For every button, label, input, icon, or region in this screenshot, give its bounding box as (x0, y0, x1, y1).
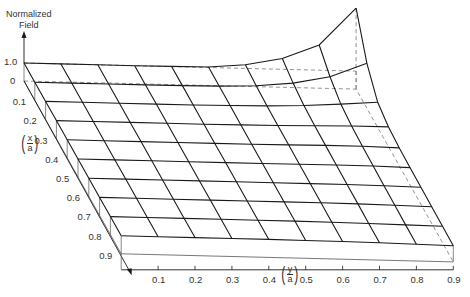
surface-grid-line-y (135, 66, 232, 239)
surface-grid-line-x (100, 197, 432, 206)
y-tick-label: 0.7 (374, 275, 387, 285)
x-tick-label: 0.4 (45, 155, 58, 165)
x-axis (24, 81, 130, 271)
x-tick-label: 0.1 (13, 97, 26, 107)
y-tick-label: 0.1 (152, 275, 165, 285)
surface-grid-line-x (67, 140, 399, 148)
surface-grid-line-y (98, 65, 195, 238)
x-tick-label: 0.6 (67, 193, 80, 203)
y-tick-label: 0.8 (410, 275, 423, 285)
surface-grid-line-x (46, 101, 378, 106)
x-tick-label: 0.2 (24, 116, 37, 126)
z-axis-arrow-icon (22, 31, 27, 38)
z-axis-label-normalized: Normalized (6, 9, 52, 20)
surface-grid-line-y (245, 65, 342, 242)
x-tick-label: 0.5 (56, 174, 69, 184)
surface-grid-line-x (78, 159, 410, 168)
surface-grid-line-x (110, 217, 442, 227)
y-tick-label: 0.2 (189, 275, 202, 285)
surface-grid-line-y (61, 64, 158, 237)
surface-grid-line-y (172, 66, 269, 239)
x-tick-label: 0.9 (99, 251, 112, 261)
y-tick-label: 0.3 (226, 275, 239, 285)
y-tick-label: 0.6 (337, 275, 350, 285)
y-tick-label: 0.5 (300, 275, 313, 285)
y-axis-label: ( ya ) (280, 264, 300, 284)
z-tick-1.0: 1.0 (4, 57, 17, 67)
surface-grid-line-y (209, 67, 306, 241)
z-axis-label-field: Field (6, 20, 52, 31)
surface-grid-line-x (56, 121, 388, 127)
surface-grid-line-x (121, 236, 453, 246)
surface-grid-line-x (24, 8, 356, 67)
z-axis-label: Normalized Field Normalized Field (6, 9, 52, 31)
x-tick-label: 0.8 (88, 232, 101, 242)
surface-plot (0, 0, 470, 297)
z-tick-0: 0 (10, 76, 15, 86)
surface-grid-line-x (89, 178, 421, 187)
x-tick-label: 0.7 (78, 212, 91, 222)
y-tick-label: 0.9 (447, 275, 460, 285)
y-tick-label: 0.4 (263, 275, 276, 285)
x-axis-label: ( xa ) (20, 133, 40, 153)
